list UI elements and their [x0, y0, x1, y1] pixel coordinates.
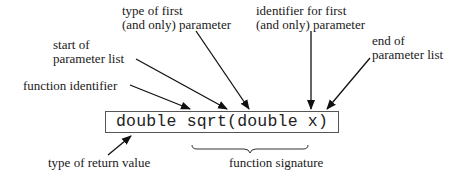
arrow-end-param-list	[327, 58, 370, 109]
arrows-layer	[0, 0, 476, 177]
signature-brace	[192, 145, 308, 153]
arrow-type-first-param	[196, 31, 249, 109]
arrow-start-param-list	[136, 59, 227, 109]
arrow-function-identifier	[130, 85, 190, 109]
arrow-return-type	[108, 136, 131, 155]
